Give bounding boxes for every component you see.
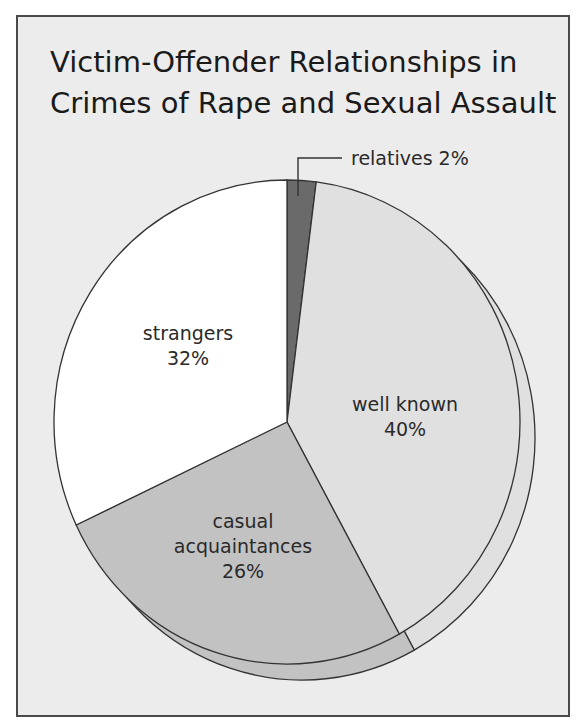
label-relatives: relatives 2% — [351, 147, 469, 169]
title-line-1: Victim-Offender Relationships in — [50, 45, 517, 79]
label-casual-name-2: acquaintances — [174, 535, 312, 557]
label-casual-pct: 26% — [222, 560, 264, 582]
label-well-known-name: well known — [352, 393, 458, 415]
label-strangers-pct: 32% — [167, 347, 209, 369]
pie-chart: Victim-Offender Relationships in Crimes … — [0, 0, 580, 724]
label-casual-name-1: casual — [213, 510, 274, 532]
chart-title: Victim-Offender Relationships in Crimes … — [50, 45, 556, 120]
title-line-2: Crimes of Rape and Sexual Assault — [50, 86, 556, 120]
pie-slices — [54, 180, 520, 664]
label-strangers-name: strangers — [143, 322, 233, 344]
label-well-known-pct: 40% — [384, 418, 426, 440]
